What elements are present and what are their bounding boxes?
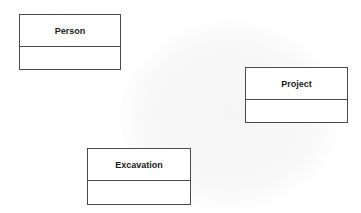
class-attributes [88, 181, 190, 204]
class-attributes [246, 100, 347, 122]
class-person[interactable]: Person [19, 14, 121, 70]
class-name: Excavation [88, 149, 190, 181]
class-excavation[interactable]: Excavation [87, 148, 191, 205]
class-attributes [20, 47, 120, 69]
class-project[interactable]: Project [245, 67, 348, 123]
class-name: Project [246, 68, 347, 100]
class-name: Person [20, 15, 120, 47]
